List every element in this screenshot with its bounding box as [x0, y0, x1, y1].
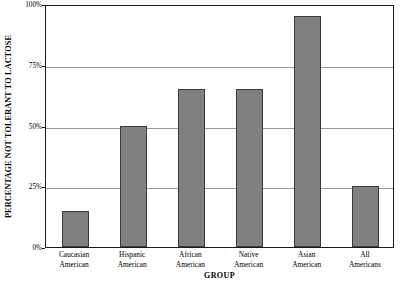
x-axis-category-label-line: Asian: [278, 250, 336, 260]
x-axis-category-label-line: African: [161, 250, 219, 260]
x-axis-category-label-line: American: [220, 260, 278, 270]
y-tick-label: 50%: [14, 123, 42, 131]
bar: [178, 89, 205, 247]
x-axis-category-label: CaucasianAmerican: [45, 250, 103, 269]
y-tick-label: 75%: [14, 62, 42, 70]
plot-area: [45, 5, 394, 248]
y-axis-ticks: 0%25%50%75%100%: [11, 5, 42, 248]
x-axis-category-label: NativeAmerican: [220, 250, 278, 269]
y-tick-mark: [42, 248, 45, 249]
x-axis-title: GROUP: [45, 271, 394, 280]
x-axis-category-label: AsianAmerican: [278, 250, 336, 269]
bar: [236, 89, 263, 247]
bar: [352, 186, 379, 247]
x-axis-category-label: AfricanAmerican: [161, 250, 219, 269]
x-axis-category-label-line: American: [103, 260, 161, 270]
x-axis-category-label-line: Hispanic: [103, 250, 161, 260]
bar: [120, 126, 147, 248]
x-axis-category-label-line: American: [161, 260, 219, 270]
bar: [62, 211, 89, 247]
x-axis-category-label-line: Native: [220, 250, 278, 260]
y-tick-label: 0%: [14, 244, 42, 252]
x-axis-category-label-line: All: [336, 250, 394, 260]
x-axis-category-label-line: American: [278, 260, 336, 270]
bar: [294, 16, 321, 247]
x-axis-category-labels: CaucasianAmericanHispanicAmericanAfrican…: [45, 250, 394, 272]
x-axis-category-label: HispanicAmerican: [103, 250, 161, 269]
x-axis-category-label-line: American: [45, 260, 103, 270]
bar-chart-figure: PERCENTAGE NOT TOLERANT TO LACTOSE 0%25%…: [0, 0, 405, 285]
x-axis-category-label-line: Caucasian: [45, 250, 103, 260]
bars-layer: [46, 6, 393, 247]
y-tick-label: 100%: [14, 1, 42, 9]
x-axis-category-label-line: Americans: [336, 260, 394, 270]
x-axis-category-label: AllAmericans: [336, 250, 394, 269]
y-tick-label: 25%: [14, 183, 42, 191]
